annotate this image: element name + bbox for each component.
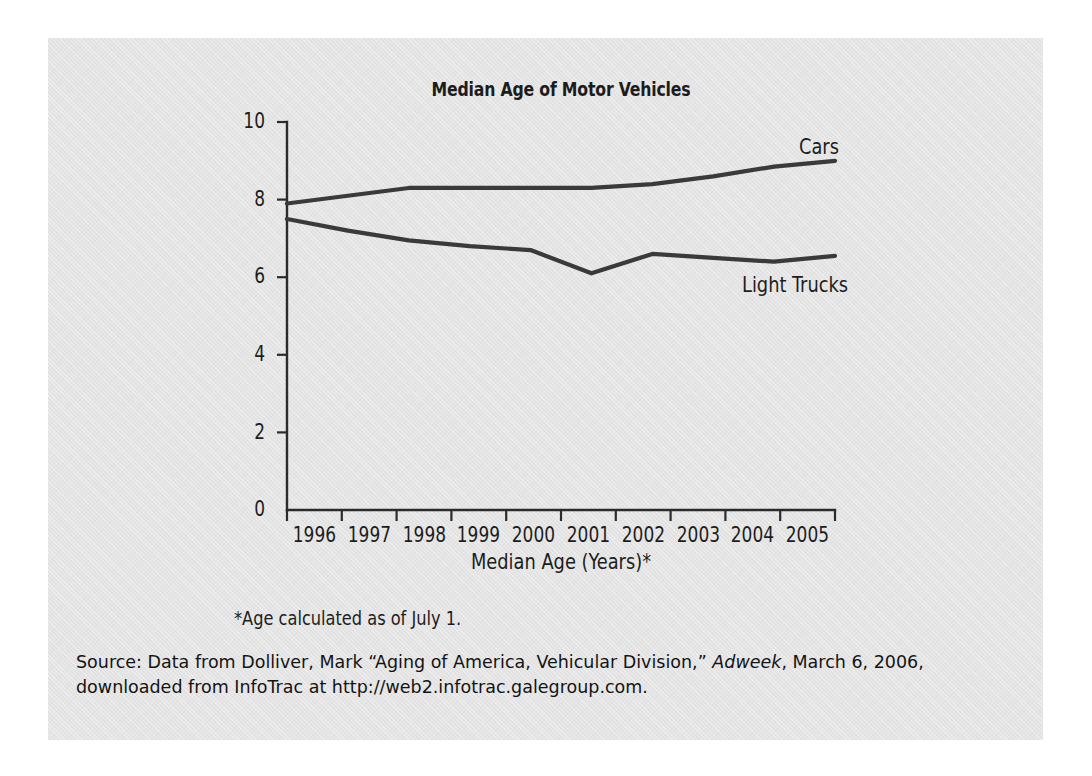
- x-axis-title: Median Age (Years)*: [314, 549, 807, 574]
- source-publication: Adweek: [712, 652, 781, 672]
- series-line-light-trucks: [287, 219, 835, 273]
- x-tick-label-2003: 2003: [673, 523, 722, 547]
- y-tick-label-10: 10: [229, 109, 265, 133]
- y-tick-label-2: 2: [229, 420, 265, 444]
- y-axis-ticks: [277, 122, 287, 432]
- source-citation: Source: Data from Dolliver, Mark “Aging …: [76, 650, 976, 700]
- x-tick-label-2005: 2005: [783, 523, 832, 547]
- series-label-light-trucks: Light Trucks: [742, 272, 848, 297]
- source-prefix: Source: Data from Dolliver, Mark “Aging …: [76, 652, 712, 672]
- chart-footnote: *Age calculated as of July 1.: [234, 606, 461, 630]
- x-tick-label-1999: 1999: [454, 523, 503, 547]
- x-tick-label-2004: 2004: [728, 523, 777, 547]
- y-tick-label-6: 6: [229, 264, 265, 288]
- series-label-cars: Cars: [799, 134, 839, 159]
- x-tick-label-1998: 1998: [399, 523, 448, 547]
- y-tick-label-4: 4: [229, 342, 265, 366]
- x-tick-label-1996: 1996: [290, 523, 339, 547]
- x-tick-label-2001: 2001: [564, 523, 613, 547]
- x-tick-label-2000: 2000: [509, 523, 558, 547]
- series-line-cars: [287, 161, 835, 204]
- x-tick-label-1997: 1997: [345, 523, 394, 547]
- source-suffix: , March 6, 2006,: [781, 652, 923, 672]
- x-axis-ticks: [287, 510, 835, 521]
- y-tick-label-8: 8: [229, 187, 265, 211]
- y-tick-label-0: 0: [229, 497, 265, 521]
- x-tick-label-2002: 2002: [619, 523, 668, 547]
- source-line2: downloaded from InfoTrac at http://web2.…: [76, 677, 648, 697]
